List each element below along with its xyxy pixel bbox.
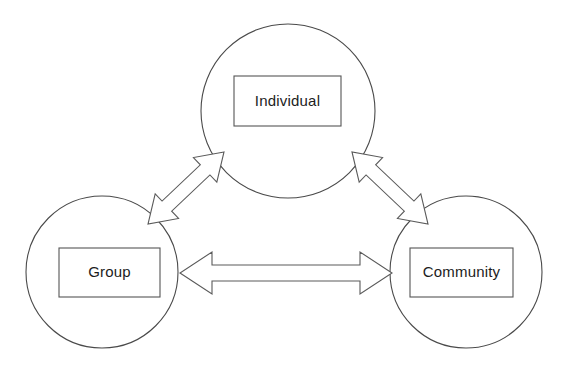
- node-label-community: Community: [423, 263, 501, 280]
- node-label-individual: Individual: [255, 92, 320, 109]
- double-arrow-individual-group: [148, 152, 224, 224]
- diagram-container: Individual Group Community: [0, 0, 570, 369]
- connector-group-community: [180, 252, 392, 294]
- connector-individual-community: [352, 152, 428, 224]
- connector-individual-group: [148, 152, 224, 224]
- diagram-canvas: Individual Group Community: [0, 0, 570, 369]
- double-arrow-group-community: [180, 252, 392, 294]
- node-label-group: Group: [88, 263, 131, 280]
- double-arrow-individual-community: [352, 152, 428, 224]
